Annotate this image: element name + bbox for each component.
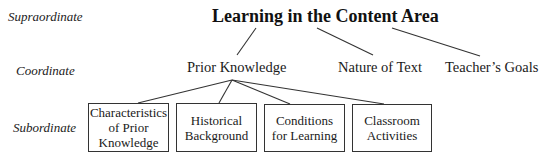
link-prior-historical [219, 80, 232, 103]
level-label-subordinate: Subordinate [13, 120, 76, 136]
coordinate-node-nature-of-text: Nature of Text [338, 59, 422, 76]
link-prior-conditions [232, 80, 290, 104]
subordinate-box-conditions-for-learning: Conditions for Learning [264, 104, 345, 152]
box-text-line: for Learning [272, 128, 337, 143]
link-root-prior-knowledge [237, 28, 256, 55]
level-label-supraordinate: Supraordinate [8, 9, 83, 25]
box-text-line: Background [185, 128, 249, 143]
box-text-line: Characteristics [90, 105, 167, 120]
box-text-line: Historical [185, 113, 249, 128]
coordinate-node-prior-knowledge: Prior Knowledge [187, 59, 286, 76]
link-root-nature-of-text [317, 28, 373, 55]
subordinate-box-characteristics: Characteristics of Prior Knowledge [88, 103, 169, 152]
link-prior-classroom [232, 80, 384, 104]
subordinate-box-historical-background: Historical Background [176, 103, 257, 152]
link-root-teachers-goals [392, 28, 480, 56]
subordinate-box-classroom-activities: Classroom Activities [352, 104, 432, 152]
box-text-line: Classroom [364, 113, 420, 128]
coordinate-node-teachers-goals: Teacher’s Goals [445, 59, 538, 76]
box-text-line: Conditions [272, 113, 337, 128]
link-prior-characteristics [138, 80, 232, 103]
box-text-line: Knowledge [90, 135, 167, 150]
level-label-coordinate: Coordinate [16, 63, 75, 79]
box-text-line: Activities [364, 128, 420, 143]
box-text-line: of Prior [90, 120, 167, 135]
root-node-title: Learning in the Content Area [212, 6, 439, 27]
